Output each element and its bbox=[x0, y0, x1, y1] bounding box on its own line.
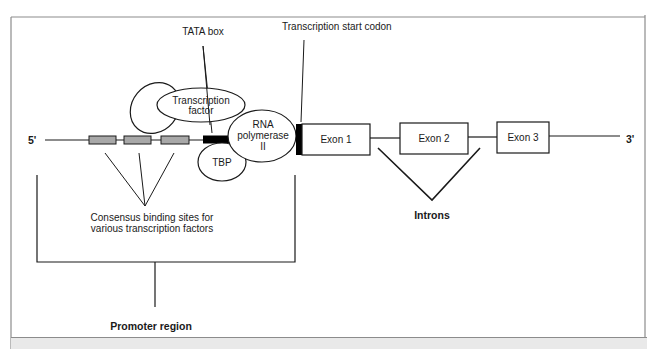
tata-box bbox=[203, 136, 230, 144]
introns-label: Introns bbox=[414, 209, 450, 221]
exon-2-label: Exon 2 bbox=[418, 133, 450, 144]
transcription-factor-label-2: factor bbox=[188, 105, 214, 116]
promoter-bracket bbox=[37, 175, 295, 307]
rna-pol-label-3: II bbox=[260, 141, 266, 152]
rna-pol-label-1: RNA bbox=[252, 119, 273, 130]
tbp-label: TBP bbox=[212, 157, 232, 168]
start-codon-marker bbox=[296, 124, 302, 155]
promoter-region-label: Promoter region bbox=[110, 320, 192, 332]
figure-caption-strip bbox=[11, 337, 647, 349]
consensus-label-2: various transcription factors bbox=[91, 223, 213, 234]
gene-structure-diagram: TATA box Transcription start codon Trans… bbox=[0, 0, 659, 349]
five-prime-label: 5' bbox=[28, 134, 36, 146]
binding-site-2 bbox=[124, 136, 151, 144]
three-prime-label: 3' bbox=[626, 133, 634, 145]
exon-3-label: Exon 3 bbox=[507, 132, 539, 143]
transcription-start-codon-label: Transcription start codon bbox=[282, 21, 392, 32]
consensus-binding-sites bbox=[89, 136, 189, 144]
figure-frame bbox=[11, 15, 645, 349]
introns-indicator bbox=[378, 148, 480, 200]
consensus-label-1: Consensus binding sites for bbox=[91, 212, 215, 223]
consensus-pointers bbox=[105, 153, 174, 206]
exon-1-label: Exon 1 bbox=[320, 134, 352, 145]
binding-site-3 bbox=[161, 136, 189, 144]
transcription-factor bbox=[120, 73, 245, 144]
rna-pol-label-2: polymerase bbox=[237, 130, 289, 141]
start-codon-pointer bbox=[301, 40, 304, 122]
binding-site-1 bbox=[89, 136, 116, 144]
tata-box-label: TATA box bbox=[182, 26, 224, 37]
